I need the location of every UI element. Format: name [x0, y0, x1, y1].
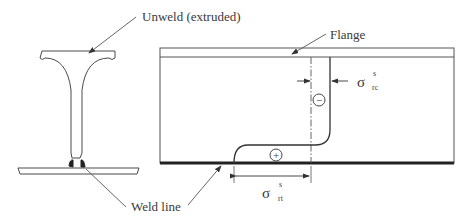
plus-sign: +	[273, 149, 279, 161]
unweld-leader	[89, 17, 136, 53]
stress-curve	[234, 57, 330, 163]
minus-sign: −	[316, 94, 322, 106]
i-beam-section	[18, 51, 139, 174]
weld-leader-right	[188, 166, 221, 205]
flange-leader	[292, 34, 326, 54]
svg-text:σ: σ	[357, 74, 365, 90]
weld-leader-left	[86, 169, 126, 207]
flange-panel	[160, 48, 454, 163]
svg-text:s: s	[279, 180, 282, 189]
sigma-rc-label: σ s rc	[357, 69, 379, 92]
svg-text:rt: rt	[278, 194, 284, 203]
sigma-rt-label: σ s rt	[262, 180, 284, 203]
svg-text:rc: rc	[372, 83, 379, 92]
flange-label: Flange	[330, 27, 366, 42]
svg-text:σ: σ	[262, 185, 270, 201]
weld-line-label: Weld line	[131, 199, 181, 214]
svg-text:s: s	[373, 69, 376, 78]
unweld-label: Unweld (extruded)	[142, 9, 241, 24]
